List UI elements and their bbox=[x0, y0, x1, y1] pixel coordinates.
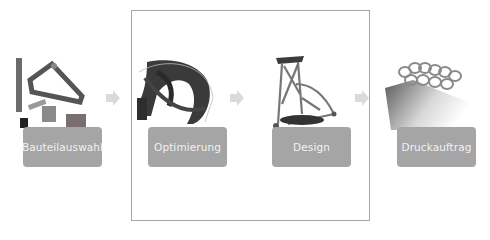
topology-optimized-bracket-image bbox=[135, 58, 215, 126]
step-label-design: Design bbox=[272, 127, 351, 167]
step-label-bauteilauswahl: Bauteilauswahl bbox=[23, 127, 102, 167]
lattice-truss-design-image bbox=[268, 54, 340, 134]
3d-print-build-plate-image bbox=[383, 58, 478, 130]
step-label-druckauftrag: Druckauftrag bbox=[397, 127, 476, 167]
bracket-parts-assembly-image bbox=[2, 56, 90, 136]
step-label-optimierung: Optimierung bbox=[148, 127, 227, 167]
